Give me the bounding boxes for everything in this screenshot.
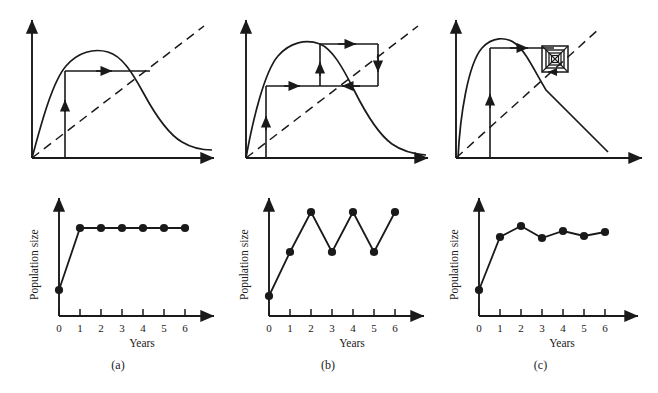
cobweb-svg-b — [232, 8, 432, 173]
tick-label: 1 — [287, 322, 293, 334]
timeseries-svg-a: Population size 0 1 2 3 4 5 — [18, 190, 218, 350]
data-points-b — [265, 208, 399, 300]
recruitment-curve-b — [246, 42, 426, 158]
tick-label: 4 — [350, 322, 356, 334]
cobweb-panel-b — [232, 8, 432, 173]
x-axis-label-b: Years — [339, 337, 365, 349]
tick-label: 2 — [518, 322, 524, 334]
cobweb-panel-c — [442, 8, 647, 173]
replacement-line-a — [32, 26, 204, 158]
axes-tb — [269, 198, 424, 316]
x-ticks-a — [59, 309, 185, 316]
axes-tc — [479, 198, 638, 316]
tick-label: 5 — [161, 322, 167, 334]
tick-label: 6 — [392, 322, 398, 334]
tick-label: 0 — [56, 322, 62, 334]
tick-label: 3 — [119, 322, 125, 334]
timeseries-svg-c: Population size 0 1 2 3 4 5 — [438, 190, 643, 350]
replacement-line-b — [246, 26, 418, 158]
tick-label: 4 — [560, 322, 566, 334]
panel-caption-c: (c) — [438, 358, 643, 373]
tick-label: 4 — [140, 322, 146, 334]
axes-ta — [59, 198, 214, 316]
recruitment-curve-c — [458, 39, 608, 158]
y-axis-label-a: Population size — [28, 229, 41, 300]
cobweb-panel-a — [18, 8, 218, 173]
data-points-a — [55, 224, 189, 294]
tick-label: 6 — [182, 322, 188, 334]
timeseries-svg-b: Population size 0 1 2 3 4 5 — [228, 190, 428, 350]
x-axis-label-a: Years — [129, 337, 155, 349]
axes-c — [456, 20, 642, 158]
tick-label: 3 — [539, 322, 545, 334]
tick-label: 6 — [602, 322, 608, 334]
cobweb-svg-a — [18, 8, 218, 173]
y-axis-label-b: Population size — [238, 229, 251, 300]
population-dynamics-figure: Population size 0 1 2 3 4 5 — [0, 0, 658, 393]
x-axis-label-c: Years — [549, 337, 575, 349]
panel-caption-a: (a) — [18, 358, 218, 373]
tick-label: 0 — [266, 322, 272, 334]
tick-label: 5 — [371, 322, 377, 334]
tick-label: 3 — [329, 322, 335, 334]
recruitment-curve-a — [32, 51, 212, 158]
cobweb-path-b — [266, 44, 378, 158]
x-ticks-c — [479, 309, 605, 316]
cobweb-svg-c — [442, 8, 647, 173]
tick-label: 2 — [98, 322, 104, 334]
x-ticks-b — [269, 309, 395, 316]
tick-label: 1 — [77, 322, 83, 334]
series-line-a — [59, 228, 185, 290]
timeseries-panel-a: Population size 0 1 2 3 4 5 — [18, 190, 218, 350]
cobweb-path-c — [490, 48, 554, 158]
tick-label: 1 — [497, 322, 503, 334]
x-tick-labels-c: 0 1 2 3 4 5 6 — [476, 322, 608, 334]
tick-label: 2 — [308, 322, 314, 334]
x-tick-labels-b: 0 1 2 3 4 5 6 — [266, 322, 398, 334]
timeseries-panel-c: Population size 0 1 2 3 4 5 — [438, 190, 643, 350]
panel-caption-b: (b) — [228, 358, 428, 373]
timeseries-panel-b: Population size 0 1 2 3 4 5 — [228, 190, 428, 350]
data-points-c — [475, 222, 609, 294]
tick-label: 0 — [476, 322, 482, 334]
tick-label: 5 — [581, 322, 587, 334]
cobweb-path-a — [65, 71, 150, 158]
x-tick-labels-a: 0 1 2 3 4 5 6 — [56, 322, 188, 334]
y-axis-label-c: Population size — [448, 229, 461, 300]
spiral-convergence-box-c — [542, 46, 568, 72]
